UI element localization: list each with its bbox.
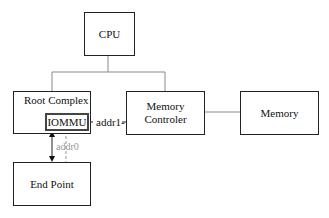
- end-point-box: End Point: [13, 162, 91, 206]
- addr0-label: addr0: [56, 141, 79, 152]
- cpu-box: CPU: [84, 12, 135, 56]
- memory-controller-label-2: Controler: [144, 113, 186, 126]
- memory-controller-label-1: Memory: [147, 100, 185, 113]
- memory-controller-box: Memory Controler: [126, 91, 205, 135]
- memory-box: Memory: [240, 91, 319, 135]
- iommu-box: IOMMU: [45, 113, 89, 131]
- end-point-label: End Point: [30, 178, 74, 191]
- cpu-label: CPU: [99, 28, 120, 41]
- memory-label: Memory: [261, 107, 299, 120]
- root-complex-label: Root Complex: [24, 94, 88, 106]
- addr1-label: addr1-: [96, 116, 125, 128]
- iommu-label: IOMMU: [47, 116, 86, 128]
